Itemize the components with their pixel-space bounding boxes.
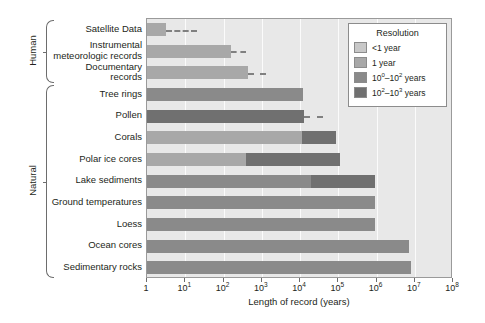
legend-swatch: [354, 72, 367, 83]
bar: [147, 45, 231, 58]
bar-segment: [147, 88, 303, 101]
legend-items: <1 year1 year100–102 years102–103 years: [354, 41, 441, 99]
bar-dashed-extension: [231, 51, 246, 53]
bar: [147, 66, 248, 79]
legend-label: 1 year: [372, 58, 396, 68]
bar-segment: [147, 196, 375, 209]
legend-swatch: [354, 87, 367, 98]
bar-row: [147, 106, 451, 128]
legend-swatch: [354, 57, 367, 68]
bar-segment: [147, 153, 246, 166]
x-tick-label: 107: [407, 283, 421, 293]
x-tick: [223, 278, 224, 282]
bar-row: [147, 236, 451, 258]
bar: [147, 218, 375, 231]
bar-row: [147, 149, 451, 171]
x-tick-label: 106: [369, 283, 383, 293]
bar: [147, 110, 304, 123]
legend-item: 100–102 years: [354, 71, 441, 84]
x-tick: [414, 278, 415, 282]
bar-row: [147, 214, 451, 236]
bar-segment: [147, 175, 311, 188]
legend-label: 102–103 years: [372, 88, 426, 98]
group-label: Natural: [27, 85, 38, 276]
x-tick-label: 102: [216, 283, 230, 293]
bar-segment: [147, 110, 304, 123]
bar-segment: [147, 45, 231, 58]
bar-segment: [147, 23, 166, 36]
bar-dashed-extension: [304, 116, 323, 118]
bar: [147, 131, 336, 144]
bar-row: [147, 257, 451, 279]
legend-swatch: [354, 42, 367, 53]
x-tick: [452, 278, 453, 282]
x-tick: [184, 278, 185, 282]
bar-segment: [147, 218, 375, 231]
legend-title: Resolution: [354, 28, 441, 38]
legend-label: <1 year: [372, 43, 401, 53]
bar: [147, 240, 409, 253]
bar: [147, 153, 340, 166]
bar: [147, 23, 166, 36]
legend-label: 100–102 years: [372, 73, 426, 83]
bar-segment: [147, 66, 248, 79]
bar: [147, 88, 303, 101]
legend-item: 102–103 years: [354, 86, 441, 99]
legend-item: <1 year: [354, 41, 441, 54]
climate-proxy-record-chart: Satellite DataInstrumentalmeteorologic r…: [0, 0, 485, 323]
bar-row: [147, 192, 451, 214]
bar: [147, 261, 411, 274]
bar-dashed-extension: [166, 30, 197, 32]
x-tick-label: 103: [254, 283, 268, 293]
x-tick: [376, 278, 377, 282]
group-bracket: [46, 20, 54, 83]
x-tick-label: 104: [292, 283, 306, 293]
x-tick: [337, 278, 338, 282]
group-bracket-nub: [43, 52, 47, 53]
bar-segment: [246, 153, 340, 166]
legend: Resolution <1 year1 year100–102 years102…: [348, 23, 447, 107]
bar-segment: [311, 175, 374, 188]
bar-row: [147, 127, 451, 149]
bar: [147, 175, 375, 188]
x-tick-label: 101: [177, 283, 191, 293]
bar-segment: [302, 131, 336, 144]
x-tick-label: 108: [445, 283, 459, 293]
group-bracket: [46, 85, 54, 278]
x-tick: [261, 278, 262, 282]
x-tick: [146, 278, 147, 282]
bar: [147, 196, 375, 209]
bar-dashed-extension: [248, 73, 265, 75]
x-tick-label: 105: [330, 283, 344, 293]
bar-segment: [147, 240, 409, 253]
group-label: Human: [27, 20, 38, 81]
x-tick: [299, 278, 300, 282]
bar-segment: [147, 131, 302, 144]
bar-row: [147, 171, 451, 193]
group-bracket-nub: [43, 182, 47, 183]
bar-segment: [147, 261, 411, 274]
legend-item: 1 year: [354, 56, 441, 69]
x-axis-title: Length of record (years): [146, 296, 452, 307]
x-tick-label: 1: [143, 283, 148, 293]
